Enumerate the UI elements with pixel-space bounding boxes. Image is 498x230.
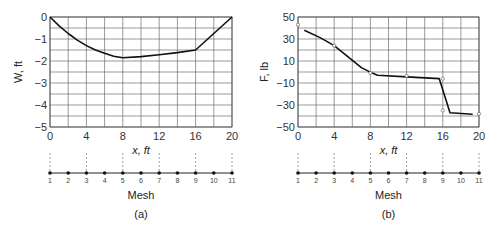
x-tick-label: 4 bbox=[331, 130, 337, 142]
mesh-node bbox=[369, 171, 373, 175]
mesh-node-label: 8 bbox=[423, 177, 427, 184]
x-tick-label: 8 bbox=[367, 130, 373, 142]
mesh-node bbox=[441, 171, 445, 175]
mesh-node bbox=[296, 171, 300, 175]
mesh-node bbox=[405, 171, 409, 175]
mesh-node-label: 11 bbox=[475, 177, 482, 184]
mesh-node-label: 1 bbox=[48, 177, 52, 184]
x-tick-label: 16 bbox=[189, 130, 201, 142]
mesh-node-label: 11 bbox=[228, 177, 235, 184]
mesh-node bbox=[176, 171, 180, 175]
figure: 0481216200−1−2−3−4−5x, ftW, ft1234567891… bbox=[0, 0, 498, 230]
mesh-node-label: 6 bbox=[139, 177, 143, 184]
y-tick-label: 10 bbox=[283, 55, 295, 67]
mesh-node-label: 5 bbox=[121, 177, 125, 184]
mesh-node-label: 3 bbox=[84, 177, 88, 184]
data-marker bbox=[477, 112, 480, 115]
x-tick-label: 20 bbox=[473, 130, 485, 142]
grid bbox=[50, 17, 232, 127]
y-tick-label: −4 bbox=[34, 99, 47, 111]
y-tick-label: −1 bbox=[34, 33, 47, 45]
mesh-node bbox=[157, 171, 161, 175]
mesh-node-label: 10 bbox=[210, 177, 218, 184]
y-tick-label: −5 bbox=[34, 121, 47, 133]
mesh-node bbox=[459, 171, 463, 175]
mesh-node-label: 9 bbox=[194, 177, 198, 184]
data-marker bbox=[369, 72, 372, 75]
y-tick-label: −30 bbox=[276, 99, 295, 111]
mesh-node-label: 4 bbox=[350, 177, 354, 184]
data-marker bbox=[405, 74, 408, 77]
mesh-node-label: 2 bbox=[314, 177, 318, 184]
mesh-node bbox=[194, 171, 198, 175]
x-tick-label: 0 bbox=[295, 130, 301, 142]
mesh-node bbox=[139, 171, 143, 175]
data-marker bbox=[441, 109, 444, 112]
grid bbox=[298, 17, 479, 127]
y-tick-label: −3 bbox=[34, 77, 47, 89]
mesh-node bbox=[423, 171, 427, 175]
x-tick-label: 16 bbox=[437, 130, 449, 142]
data-marker bbox=[333, 44, 336, 47]
mesh-node bbox=[66, 171, 70, 175]
y-tick-label: −2 bbox=[34, 55, 47, 67]
mesh-node-label: 3 bbox=[332, 177, 336, 184]
mesh-label: Mesh bbox=[375, 189, 402, 201]
mesh-node-label: 5 bbox=[368, 177, 372, 184]
panel-label: (a) bbox=[134, 208, 147, 220]
x-axis-label: x, ft bbox=[379, 144, 399, 156]
y-tick-label: 50 bbox=[283, 11, 295, 23]
mesh-node-label: 8 bbox=[175, 177, 179, 184]
mesh-node-label: 10 bbox=[457, 177, 465, 184]
x-tick-label: 12 bbox=[153, 130, 165, 142]
x-tick-label: 20 bbox=[226, 130, 238, 142]
mesh-node-label: 6 bbox=[387, 177, 391, 184]
y-axis-label: W, ft bbox=[12, 61, 24, 83]
y-tick-label: 30 bbox=[283, 33, 295, 45]
mesh-node-label: 7 bbox=[157, 177, 161, 184]
mesh-node-label: 9 bbox=[441, 177, 445, 184]
y-axis-label: F, lb bbox=[258, 62, 270, 82]
mesh-node-label: 7 bbox=[405, 177, 409, 184]
y-tick-label: 0 bbox=[41, 11, 47, 23]
x-tick-label: 8 bbox=[120, 130, 126, 142]
x-axis-label: x, ft bbox=[131, 144, 151, 156]
mesh-node bbox=[477, 171, 481, 175]
data-marker bbox=[441, 77, 444, 80]
x-tick-label: 0 bbox=[47, 130, 53, 142]
panel-a: 0481216200−1−2−3−4−5x, ftW, ft1234567891… bbox=[12, 11, 238, 220]
mesh-node-label: 2 bbox=[66, 177, 70, 184]
mesh-node-label: 1 bbox=[296, 177, 300, 184]
mesh-node bbox=[351, 171, 355, 175]
mesh-label: Mesh bbox=[128, 189, 155, 201]
panel-b: 048121620503010−10−30−50x, ftF, lb123456… bbox=[258, 11, 485, 220]
mesh-node bbox=[85, 171, 89, 175]
x-tick-label: 12 bbox=[400, 130, 412, 142]
mesh-node bbox=[332, 171, 336, 175]
mesh-node bbox=[212, 171, 216, 175]
y-tick-label: −10 bbox=[276, 77, 295, 89]
mesh-node bbox=[387, 171, 391, 175]
mesh-node bbox=[48, 171, 52, 175]
x-tick-label: 4 bbox=[83, 130, 89, 142]
mesh-node bbox=[121, 171, 125, 175]
mesh-node bbox=[314, 171, 318, 175]
mesh-diagram: 1234567891011 bbox=[48, 153, 236, 184]
data-marker bbox=[296, 23, 299, 26]
mesh-diagram: 1234567891011 bbox=[296, 153, 483, 184]
mesh-node bbox=[230, 171, 234, 175]
mesh-node-label: 4 bbox=[103, 177, 107, 184]
panel-label: (b) bbox=[382, 208, 395, 220]
y-tick-label: −50 bbox=[276, 121, 295, 133]
mesh-node bbox=[103, 171, 107, 175]
